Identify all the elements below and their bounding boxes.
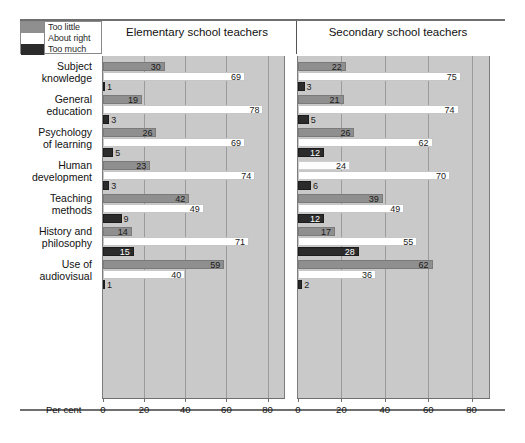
bar-value-label: 12: [310, 215, 320, 224]
bar-right[interactable]: [298, 105, 459, 114]
bar-much[interactable]: [103, 82, 105, 91]
panel-title-divider: [296, 21, 297, 54]
bar-value-label: 28: [345, 248, 355, 257]
bar-group: 42499: [103, 194, 284, 227]
legend: Too little About right Too much: [20, 21, 102, 54]
axis-tick-label: 60: [413, 404, 443, 415]
bar-value-label: 75: [447, 73, 457, 82]
row-label-line1: Use of: [0, 258, 92, 270]
bar-much[interactable]: [103, 181, 109, 190]
bar-little[interactable]: [298, 260, 433, 269]
bar-value-label: 2: [304, 281, 309, 290]
row-label-line2: audiovisual: [0, 270, 92, 282]
row-label-line1: Teaching: [0, 192, 92, 204]
bar-value-label: 24: [336, 162, 346, 171]
row-label: Use ofaudiovisual: [0, 258, 96, 282]
bar-value-label: 49: [190, 205, 200, 214]
bar-much[interactable]: [298, 82, 305, 91]
bar-right[interactable]: [103, 105, 263, 114]
bar-group: 59401: [103, 260, 284, 293]
axis-tick-label: 40: [170, 404, 200, 415]
bar-group: 22753: [298, 62, 489, 95]
bar-much[interactable]: [103, 148, 113, 157]
legend-label-too-little: Too little: [45, 22, 101, 33]
axis-tick: [268, 398, 269, 402]
axis-tick: [298, 398, 299, 402]
legend-item-too-little: Too little: [21, 22, 101, 33]
bar-value-label: 22: [332, 63, 342, 72]
axis-tick: [472, 398, 473, 402]
axis-tick-label: 80: [253, 404, 283, 415]
bar-value-label: 69: [231, 139, 241, 148]
bar-value-label: 55: [403, 238, 413, 247]
bar-value-label: 6: [313, 182, 318, 191]
bar-right[interactable]: [298, 138, 433, 147]
axis-tick: [103, 398, 104, 402]
legend-item-too-much: Too much: [21, 44, 101, 55]
row-label-line2: of learning: [0, 138, 92, 150]
bar-value-label: 70: [436, 172, 446, 181]
axis-tick: [185, 398, 186, 402]
row-label-line1: History and: [0, 225, 92, 237]
bar-value-label: 26: [340, 129, 350, 138]
row-label-line1: Subject: [0, 60, 92, 72]
bar-value-label: 12: [310, 149, 320, 158]
bar-value-label: 3: [111, 182, 116, 191]
legend-swatch-too-little: [21, 22, 45, 33]
bar-much[interactable]: [103, 115, 109, 124]
bar-much[interactable]: [103, 214, 122, 223]
row-label: Subjectknowledge: [0, 60, 96, 84]
row-label-line2: development: [0, 171, 92, 183]
bar-group: 62362: [298, 260, 489, 293]
bar-right[interactable]: [298, 72, 461, 81]
bar-right[interactable]: [103, 138, 245, 147]
bar-little[interactable]: [103, 260, 224, 269]
axis-tick-label: 0: [283, 404, 313, 415]
row-label-line1: Human: [0, 159, 92, 171]
bar-right[interactable]: [103, 171, 255, 180]
bar-right[interactable]: [298, 237, 417, 246]
bar-value-label: 23: [136, 162, 146, 171]
row-label-line2: philosophy: [0, 237, 92, 249]
bar-value-label: 71: [235, 238, 245, 247]
legend-item-about-right: About right: [21, 33, 101, 44]
axis-tick-label: 20: [326, 404, 356, 415]
bar-much[interactable]: [103, 280, 105, 289]
bar-value-label: 74: [241, 172, 251, 181]
plot-area-secondary: 22753217452662122470639491217552862362: [297, 56, 490, 398]
row-label: Generaleducation: [0, 93, 96, 117]
row-label-line2: methods: [0, 204, 92, 216]
row-label-line1: Psychology: [0, 126, 92, 138]
axis-tick-label: 40: [370, 404, 400, 415]
bar-value-label: 5: [115, 149, 120, 158]
legend-swatch-about-right: [21, 33, 45, 44]
bar-value-label: 17: [321, 228, 331, 237]
bar-much[interactable]: [298, 280, 302, 289]
bar-value-label: 78: [249, 106, 259, 115]
bar-right[interactable]: [103, 237, 249, 246]
plot-area-elementary: 306911978326695237434249914711559401: [102, 56, 285, 398]
bar-right[interactable]: [103, 72, 245, 81]
bar-right[interactable]: [103, 204, 204, 213]
axis-tick: [428, 398, 429, 402]
panel-title-secondary: Secondary school teachers: [302, 26, 494, 38]
bar-much[interactable]: [298, 181, 311, 190]
bar-value-label: 36: [362, 271, 372, 280]
bar-value-label: 26: [142, 129, 152, 138]
bar-value-label: 1: [107, 83, 112, 92]
bar-right[interactable]: [298, 204, 404, 213]
chart-figure: Too little About right Too much Elementa…: [0, 0, 525, 443]
axis-tick: [144, 398, 145, 402]
axis-tick: [226, 398, 227, 402]
axis-line: [102, 398, 285, 399]
axis-tick-label: 0: [88, 404, 118, 415]
bar-value-label: 1: [107, 281, 112, 290]
bar-group: 21745: [298, 95, 489, 128]
bar-value-label: 3: [111, 116, 116, 125]
axis-tick-label: 60: [211, 404, 241, 415]
bar-group: 19783: [103, 95, 284, 128]
bar-group: 26695: [103, 128, 284, 161]
bar-much[interactable]: [298, 115, 309, 124]
bar-right[interactable]: [298, 171, 450, 180]
bar-value-label: 39: [369, 195, 379, 204]
